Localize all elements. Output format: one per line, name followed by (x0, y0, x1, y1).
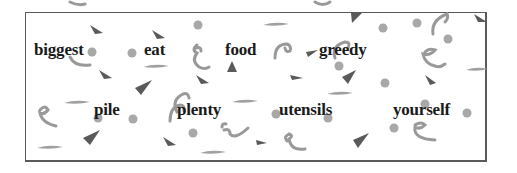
word-greedy: greedy (319, 40, 367, 60)
word-biggest: biggest (34, 40, 84, 60)
word-food: food (225, 40, 256, 60)
word-pile: pile (94, 100, 120, 120)
feather-confetti-icons (37, 23, 488, 154)
triangle-confetti-icons (83, 13, 487, 148)
word-yourself: yourself (393, 100, 450, 120)
swirl-confetti-icons (40, 2, 448, 149)
word-utensils: utensils (279, 100, 332, 120)
word-eat: eat (144, 40, 165, 60)
confetti-decoration (0, 0, 517, 173)
word-plenty: plenty (177, 100, 221, 120)
